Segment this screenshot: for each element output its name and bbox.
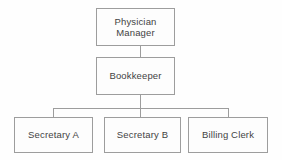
node-secretary-b-label: Secretary B <box>117 129 168 141</box>
org-chart-diagram: Physician Manager Bookkeeper Secretary A… <box>0 0 282 160</box>
connector-bookkeeper-to-bus <box>140 95 141 108</box>
node-bookkeeper-label: Bookkeeper <box>109 70 161 82</box>
node-physician-manager-label: Physician Manager <box>114 16 156 39</box>
node-secretary-b: Secretary B <box>104 117 181 153</box>
connector-bus-to-secretary-a <box>53 108 54 117</box>
connector-manager-to-bookkeeper <box>140 46 141 57</box>
node-bookkeeper: Bookkeeper <box>96 57 175 95</box>
connector-bus-to-billing-clerk <box>228 108 229 117</box>
node-billing-clerk: Billing Clerk <box>188 117 268 153</box>
connector-horizontal-bus <box>53 108 229 109</box>
node-billing-clerk-label: Billing Clerk <box>202 129 254 141</box>
node-secretary-a: Secretary A <box>14 117 93 153</box>
connector-bus-to-secretary-b <box>140 108 141 117</box>
node-physician-manager: Physician Manager <box>96 8 175 46</box>
node-secretary-a-label: Secretary A <box>28 129 79 141</box>
